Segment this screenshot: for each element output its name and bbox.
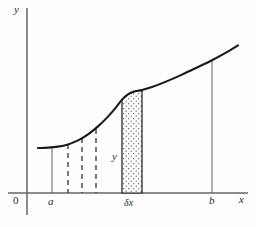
figure-canvas: y x 0 a δx b y xyxy=(0,0,256,227)
x-axis-label: x xyxy=(238,193,244,205)
elemental-strip-fill xyxy=(122,90,142,193)
tick-label-a: a xyxy=(48,195,54,207)
strip-height-label: y xyxy=(111,150,117,162)
integration-diagram: y x 0 a δx b y xyxy=(0,0,256,227)
origin-label: 0 xyxy=(13,194,19,206)
tick-label-delta-x: δx xyxy=(124,197,134,208)
y-axis-label: y xyxy=(13,3,19,15)
tick-label-b: b xyxy=(209,194,215,206)
